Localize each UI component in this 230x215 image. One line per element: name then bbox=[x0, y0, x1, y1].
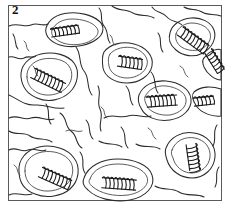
figure-frame bbox=[9, 6, 222, 201]
figure-panel: 2 bbox=[0, 0, 230, 215]
figure-drawing bbox=[0, 0, 230, 215]
panel-label: 2 bbox=[12, 3, 19, 16]
